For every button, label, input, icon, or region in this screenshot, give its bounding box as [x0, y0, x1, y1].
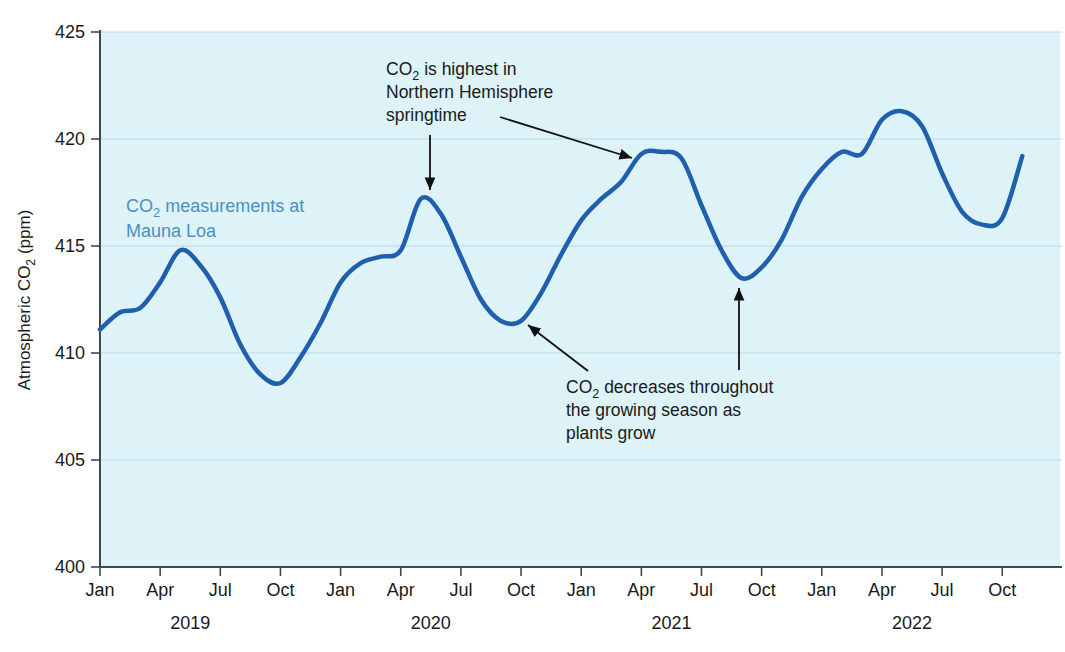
plot-area-background	[100, 32, 1060, 567]
x-tick-label: Apr	[387, 580, 415, 600]
chart-container: 400405410415420425 JanAprJulOctJanAprJul…	[0, 0, 1065, 652]
x-tick-label: Oct	[266, 580, 294, 600]
x-tick-label: Apr	[146, 580, 174, 600]
y-tick-label: 420	[55, 129, 85, 149]
co2-line-chart: 400405410415420425 JanAprJulOctJanAprJul…	[0, 0, 1065, 652]
x-tick-label: Oct	[507, 580, 535, 600]
x-axis-year-label: 2021	[651, 613, 691, 633]
x-tick-label: Apr	[868, 580, 896, 600]
x-tick-label: Jul	[931, 580, 954, 600]
x-tick-label: Jan	[807, 580, 836, 600]
y-tick-label: 425	[55, 22, 85, 42]
x-axis-ticks: JanAprJulOctJanAprJulOctJanAprJulOctJanA…	[85, 567, 1016, 600]
y-tick-label: 405	[55, 450, 85, 470]
x-tick-label: Jul	[690, 580, 713, 600]
y-axis-title: Atmospheric CO2 (ppm)	[15, 210, 38, 391]
x-tick-label: Apr	[627, 580, 655, 600]
x-tick-label: Oct	[748, 580, 776, 600]
series-label-line2: Mauna Loa	[126, 221, 217, 241]
annotation-spring-peak-line3: springtime	[386, 105, 467, 125]
x-tick-label: Jan	[326, 580, 355, 600]
x-tick-label: Oct	[988, 580, 1016, 600]
x-axis-year-label: 2022	[892, 613, 932, 633]
x-axis-year-label: 2019	[170, 613, 210, 633]
y-axis-ticks: 400405410415420425	[55, 22, 100, 577]
y-tick-label: 410	[55, 343, 85, 363]
x-tick-label: Jul	[209, 580, 232, 600]
annotation-spring-peak-line2: Northern Hemisphere	[386, 82, 553, 102]
x-tick-label: Jul	[449, 580, 472, 600]
y-tick-label: 400	[55, 557, 85, 577]
x-tick-label: Jan	[567, 580, 596, 600]
x-axis-year-labels: 2019202020212022	[170, 613, 932, 633]
x-tick-label: Jan	[85, 580, 114, 600]
x-axis-year-label: 2020	[411, 613, 451, 633]
annotation-growing-season-line2: the growing season as	[566, 400, 741, 420]
annotation-growing-season-line3: plants grow	[566, 423, 656, 443]
y-tick-label: 415	[55, 236, 85, 256]
